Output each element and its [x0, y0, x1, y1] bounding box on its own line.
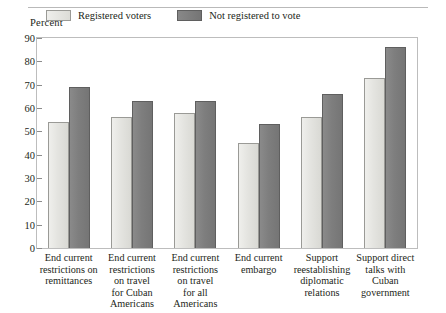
bar-groups	[37, 38, 417, 248]
bar-group	[100, 38, 163, 248]
bar-not-registered	[132, 101, 153, 248]
x-axis-category-labels: End currentrestrictions onremittancesEnd…	[37, 252, 417, 310]
bar-group	[290, 38, 353, 248]
bar-not-registered	[385, 47, 406, 248]
bar-chart: Percent 0102030405060708090 Registered v…	[0, 0, 446, 313]
y-tick-label: 30	[13, 173, 35, 184]
top-divider-rule	[28, 7, 428, 8]
category-label: End currentembargo	[227, 252, 290, 310]
bar-not-registered	[259, 124, 280, 248]
plot-area: 0102030405060708090	[37, 38, 417, 248]
category-label: Support directtalks withCubangovernment	[354, 252, 417, 310]
bar-registered-voters	[238, 143, 259, 248]
y-tick-mark	[37, 248, 42, 249]
bar-registered-voters	[174, 113, 195, 248]
y-tick-label: 10	[13, 219, 35, 230]
chart-legend: Registered voters Not registered to vote	[46, 10, 300, 21]
bar-not-registered	[69, 87, 90, 248]
y-tick-label: 40	[13, 149, 35, 160]
bar-registered-voters	[364, 78, 385, 248]
y-tick-label: 0	[13, 243, 35, 254]
bar-group	[37, 38, 100, 248]
bar-not-registered	[322, 94, 343, 248]
category-label: End currentrestrictionson travelfor allA…	[164, 252, 227, 310]
legend-swatch-icon	[46, 10, 71, 21]
y-tick-label: 60	[13, 103, 35, 114]
y-tick-label: 20	[13, 196, 35, 207]
bar-registered-voters	[48, 122, 69, 248]
bar-group	[354, 38, 417, 248]
category-label: Supportreestablishingdiplomaticrelations	[290, 252, 353, 310]
category-label: End currentrestrictions onremittances	[37, 252, 100, 310]
y-tick-label: 90	[13, 33, 35, 44]
legend-swatch-icon	[177, 10, 202, 21]
y-tick-label: 50	[13, 126, 35, 137]
bar-group	[227, 38, 290, 248]
y-tick-label: 80	[13, 56, 35, 67]
legend-label: Registered voters	[78, 10, 151, 21]
legend-item-registered-voters: Registered voters	[46, 10, 151, 21]
category-label: End currentrestrictionson travelfor Cuba…	[100, 252, 163, 310]
legend-label: Not registered to vote	[209, 10, 300, 21]
bar-registered-voters	[111, 117, 132, 248]
bar-registered-voters	[301, 117, 322, 248]
bar-group	[164, 38, 227, 248]
legend-item-not-registered: Not registered to vote	[177, 10, 300, 21]
y-tick-label: 70	[13, 79, 35, 90]
bar-not-registered	[195, 101, 216, 248]
